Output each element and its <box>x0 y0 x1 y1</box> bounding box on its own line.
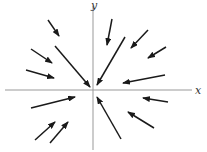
vector-arrow <box>148 47 166 58</box>
vector-arrow <box>107 19 112 45</box>
vector-arrow <box>131 30 148 48</box>
y-axis-label: y <box>90 0 98 12</box>
vector-arrow <box>128 112 154 128</box>
vector-arrow <box>31 49 52 63</box>
vector-arrow <box>97 37 125 85</box>
arrow-group <box>26 19 168 143</box>
vector-arrow <box>123 75 165 83</box>
vector-arrow <box>55 46 90 87</box>
vector-field-diagram: y x <box>0 0 207 152</box>
vector-arrow <box>26 70 54 78</box>
vector-arrow <box>48 20 59 36</box>
vector-arrow <box>35 122 55 140</box>
vector-arrow <box>50 122 68 143</box>
vector-arrow <box>97 97 121 139</box>
vector-arrow <box>31 97 75 108</box>
vector-arrow <box>143 98 168 102</box>
x-axis-label: x <box>195 84 202 97</box>
